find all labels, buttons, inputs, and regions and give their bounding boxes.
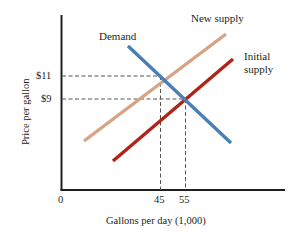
x-axis-title: Gallons per day (1,000): [106, 215, 206, 226]
series-label-initial-supply-line1: Initial: [244, 50, 270, 62]
y-axis-title: Price per gallon: [20, 79, 31, 145]
series-label-demand: Demand: [99, 31, 136, 43]
series-label-new-supply: New supply: [191, 13, 244, 25]
supply-demand-chart: Price per gallon $11 $9 0 45 55 Gallons …: [0, 0, 292, 242]
y-tick-label-11: $11: [36, 70, 51, 81]
chart-canvas: [0, 0, 292, 242]
x-tick-label-45: 45: [154, 194, 165, 205]
x-tick-label-0: 0: [58, 194, 63, 205]
series-label-initial-supply-line2: supply: [244, 63, 273, 75]
y-tick-label-9: $9: [41, 93, 52, 104]
series-label-initial-supply: Initial supply: [244, 50, 273, 75]
x-tick-label-55: 55: [179, 194, 190, 205]
